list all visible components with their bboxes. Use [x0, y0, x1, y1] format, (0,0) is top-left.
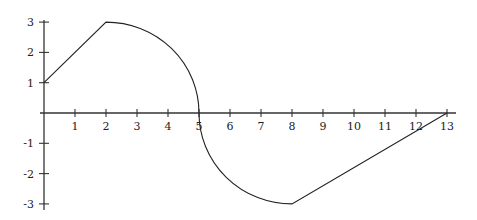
x-tick-label: 2: [103, 120, 110, 133]
x-tick-label: 3: [134, 120, 141, 133]
x-tick-label: 6: [227, 120, 234, 133]
x-tick-label: 4: [165, 120, 172, 133]
axes: [40, 20, 456, 210]
x-tick-label: 10: [347, 120, 361, 133]
y-tick-label: 3: [27, 16, 34, 29]
x-tick-label: 8: [289, 120, 296, 133]
function-graph: 12345678910111213 321-1-2-3: [0, 0, 477, 220]
x-tick-label: 13: [440, 120, 454, 133]
x-tick-label: 11: [378, 120, 392, 133]
y-tick-label: 1: [27, 77, 34, 90]
y-tick-label: -3: [23, 198, 34, 211]
y-tick-label: -1: [23, 137, 34, 150]
x-tick-label: 9: [320, 120, 327, 133]
y-tick-label: -2: [23, 168, 34, 181]
x-tick-label: 1: [72, 120, 79, 133]
x-tick-label: 7: [258, 120, 265, 133]
y-tick-label: 2: [27, 46, 34, 59]
